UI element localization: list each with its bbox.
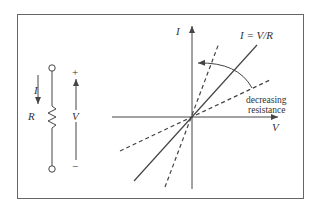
x-axis-label: V <box>272 121 280 133</box>
iv-graph: I V I = V/R decreasing resistance <box>112 25 287 189</box>
minus-sign: − <box>72 160 78 172</box>
top-terminal <box>49 65 55 71</box>
annotation-resistance: resistance <box>248 105 285 115</box>
annotation-decreasing: decreasing <box>246 95 287 105</box>
ohm-line-label: I = V/R <box>239 29 273 41</box>
high-resistance-line <box>120 80 270 151</box>
y-axis-label: I <box>175 25 181 37</box>
plus-sign: + <box>72 66 78 78</box>
resistor-zigzag <box>48 106 56 128</box>
ohms-law-diagram: I R V + − I V I = V/R decreasing resista… <box>0 0 317 209</box>
resistor-label: R <box>27 110 35 122</box>
resistor-circuit <box>48 65 56 172</box>
bottom-terminal <box>49 166 55 172</box>
ohm-line <box>134 45 257 181</box>
decreasing-resistance-arrow <box>198 63 252 88</box>
